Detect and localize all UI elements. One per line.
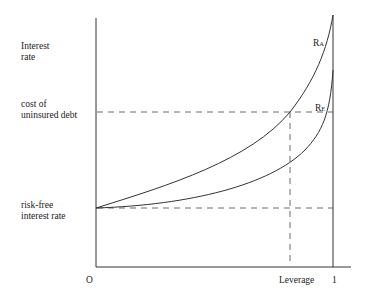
- curve-re: [96, 70, 333, 208]
- re-label: RE: [315, 103, 325, 114]
- risk-free-label: risk-free interest rate: [21, 200, 66, 222]
- cost-label-line1: cost of: [21, 99, 77, 110]
- ra-label: RA: [313, 38, 324, 49]
- cost-uninsured-debt-label: cost of uninsured debt: [21, 99, 77, 121]
- cost-label-line2: uninsured debt: [21, 110, 77, 121]
- y-axis-title-line2: rate: [21, 52, 50, 63]
- x-axis-label: Leverage: [279, 275, 314, 286]
- riskfree-label-line1: risk-free: [21, 200, 66, 211]
- riskfree-label-line2: interest rate: [21, 211, 66, 222]
- origin-label: O: [86, 275, 93, 286]
- ra-label-sub: A: [319, 40, 324, 47]
- y-axis-title: Interest rate: [21, 41, 50, 63]
- re-label-sub: E: [321, 105, 325, 112]
- curve-ra: [96, 15, 333, 208]
- x-tick-one: 1: [332, 275, 337, 286]
- y-axis-title-line1: Interest: [21, 41, 50, 52]
